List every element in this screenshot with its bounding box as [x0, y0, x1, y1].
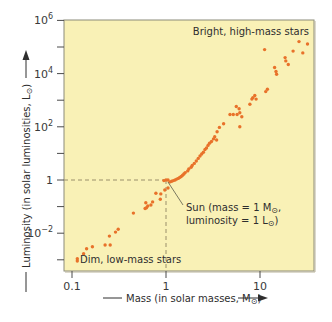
star-point	[162, 179, 165, 182]
star-point	[218, 126, 221, 129]
x-axis-title: Mass (in solar masses, M⊙)	[103, 293, 268, 306]
star-point	[222, 122, 225, 125]
y-tick-label: 104	[34, 66, 53, 81]
star-point	[149, 203, 152, 206]
star-point	[91, 245, 94, 248]
mass-luminosity-chart: 106104102110−2 0.1110 Bright, high-mass …	[0, 0, 332, 322]
star-point	[254, 97, 257, 100]
star-point	[284, 59, 287, 62]
star-point	[151, 200, 154, 203]
x-tick-label: 1	[163, 280, 170, 293]
star-point	[85, 247, 88, 250]
y-tick-label: 106	[34, 12, 53, 27]
star-point	[154, 192, 157, 195]
star-point	[237, 107, 240, 110]
star-point	[228, 113, 231, 116]
star-point	[248, 103, 251, 106]
star-point	[144, 201, 147, 204]
star-point	[117, 228, 120, 231]
star-point	[287, 63, 290, 66]
star-point	[215, 138, 218, 141]
star-point	[283, 56, 286, 59]
y-axis-label: Luminosity (in solar luminosities, L⊙)	[21, 84, 34, 268]
star-point	[264, 90, 267, 93]
x-tick-label: 0.1	[63, 280, 81, 293]
plot-area	[64, 20, 314, 271]
x-axis-ticks: 0.1110	[63, 271, 267, 293]
star-point	[235, 105, 238, 108]
bright-stars-label: Bright, high-mass stars	[193, 26, 309, 37]
star-point	[240, 115, 243, 118]
star-point	[263, 48, 266, 51]
y-tick-label: 102	[34, 119, 53, 134]
star-point	[291, 49, 294, 52]
dim-stars-label-group: Dim, low-mass stars	[80, 254, 181, 265]
star-point	[215, 130, 218, 133]
star-point	[108, 234, 111, 237]
star-point	[103, 243, 106, 246]
y-axis-title: Luminosity (in solar luminosities, L⊙)	[21, 50, 34, 292]
star-point	[159, 192, 162, 195]
star-point	[251, 96, 254, 99]
star-point	[114, 230, 117, 233]
star-point	[273, 66, 276, 69]
star-point	[163, 188, 166, 191]
star-point	[235, 113, 238, 116]
star-point	[238, 125, 241, 128]
star-point	[232, 113, 235, 116]
star-point	[159, 198, 162, 201]
star-point	[143, 207, 146, 210]
x-tick-label: 10	[253, 280, 267, 293]
arrow-up-icon	[23, 50, 30, 60]
star-point	[301, 51, 304, 54]
y-tick-label: 1	[46, 174, 53, 187]
star-point	[306, 42, 309, 45]
dim-stars-label: Dim, low-mass stars	[80, 254, 181, 265]
star-point	[275, 73, 278, 76]
star-point	[109, 243, 112, 246]
star-point	[166, 186, 169, 189]
star-point	[132, 211, 135, 214]
star-point	[76, 259, 79, 262]
star-point	[297, 40, 300, 43]
arrow-right-icon	[258, 295, 268, 302]
x-axis-label: Mass (in solar masses, M⊙)	[126, 293, 261, 306]
y-axis-ticks: 106104102110−2	[27, 12, 64, 259]
